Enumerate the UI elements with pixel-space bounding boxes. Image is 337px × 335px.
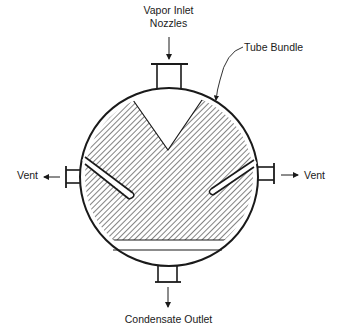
condensate-outlet-label: Condensate Outlet (0, 313, 337, 326)
tube-bundle-leader (216, 47, 243, 100)
vapor-inlet-label-line2: Nozzles (0, 17, 337, 30)
vent-left-label: Vent (17, 169, 38, 182)
tube-bundle-label: Tube Bundle (244, 41, 303, 54)
vapor-inlet-nozzle (151, 64, 188, 90)
vapor-inlet-label: Vapor Inlet Nozzles (0, 4, 337, 30)
vapor-inlet-label-line1: Vapor Inlet (0, 4, 337, 17)
vent-right-label: Vent (304, 169, 325, 182)
